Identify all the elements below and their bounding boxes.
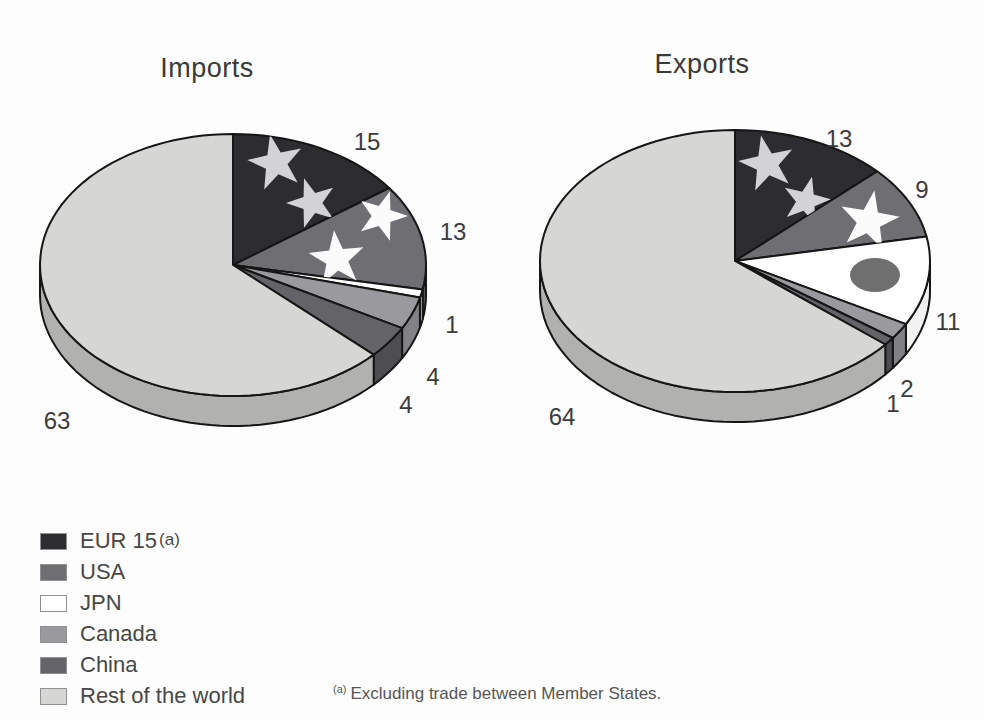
pie-exports: 139112164: [540, 125, 960, 430]
slice-value-label-eur-15: 15: [354, 128, 381, 155]
slice-value-label-usa: 9: [915, 176, 928, 203]
slice-value-label-canada: 4: [426, 363, 439, 390]
legend-footnote-ref: (a): [159, 530, 180, 549]
legend-item-jpn: JPN: [40, 594, 245, 612]
slice-value-label-rest-of-the-world: 64: [549, 403, 576, 430]
slice-value-label-china: 4: [399, 391, 412, 418]
legend: EUR 15(a) USA JPN Canada China Rest of t…: [40, 532, 245, 705]
slice-value-label-china: 1: [886, 390, 899, 417]
exports-chart-title: Exports: [617, 49, 787, 80]
slice-value-label-eur-15: 13: [826, 125, 853, 152]
legend-swatch-eur15: [40, 533, 67, 550]
legend-item-rest-of-the-world: Rest of the world: [40, 687, 245, 705]
legend-label-rest: Rest of the world: [80, 683, 245, 709]
japan-flag-circle-icon: [850, 258, 900, 292]
slice-value-label-canada: 2: [900, 375, 913, 402]
legend-swatch-canada: [40, 626, 67, 643]
slice-value-label-jpn: 1: [445, 311, 458, 338]
legend-item-usa: USA: [40, 563, 245, 581]
legend-item-china: China: [40, 656, 245, 674]
imports-chart-title: Imports: [122, 53, 292, 84]
slice-value-label-usa: 13: [440, 218, 467, 245]
legend-swatch-china: [40, 657, 67, 674]
legend-item-eur15: EUR 15(a): [40, 532, 245, 550]
trade-shares-figure: 151314463139112164 Imports Exports EUR 1…: [0, 0, 984, 721]
legend-label-china: China: [80, 652, 137, 678]
legend-label-eur15: EUR 15: [80, 528, 157, 553]
slice-value-label-rest-of-the-world: 63: [44, 407, 71, 434]
slice-value-label-jpn: 11: [936, 308, 961, 335]
footnote-marker: (a): [333, 683, 346, 695]
legend-label-usa: USA: [80, 559, 125, 585]
legend-item-canada: Canada: [40, 625, 245, 643]
pie-imports: 151314463: [40, 128, 466, 434]
legend-swatch-jpn: [40, 595, 67, 612]
legend-swatch-rest: [40, 688, 67, 705]
legend-swatch-usa: [40, 564, 67, 581]
footnote: (a)Excluding trade between Member States…: [333, 683, 661, 704]
legend-label-canada: Canada: [80, 621, 157, 647]
footnote-text: Excluding trade between Member States.: [350, 684, 661, 703]
legend-label-jpn: JPN: [80, 590, 122, 616]
